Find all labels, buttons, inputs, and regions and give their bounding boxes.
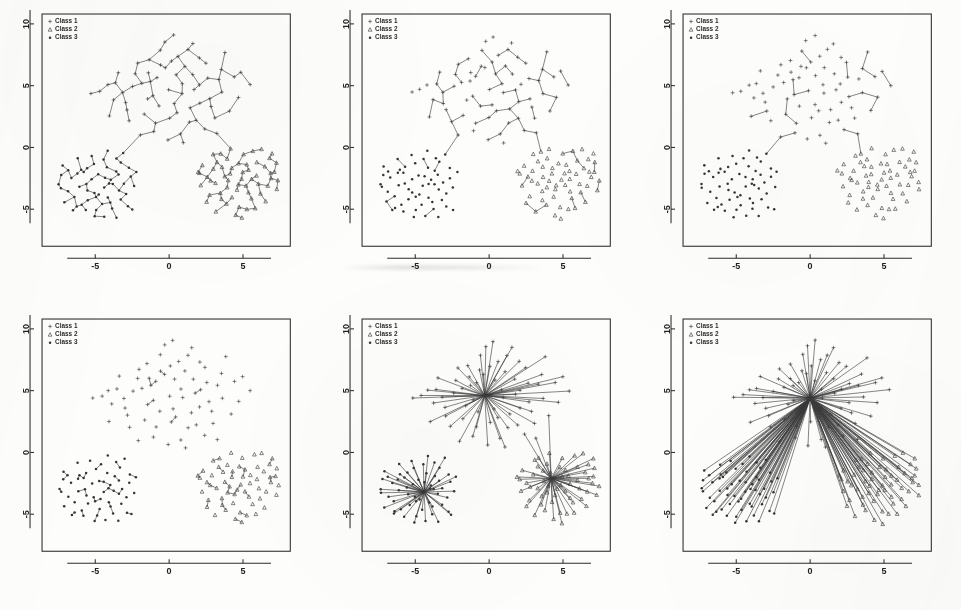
data-point xyxy=(256,465,260,469)
data-point xyxy=(129,473,132,476)
x-tick-label: 5 xyxy=(881,261,886,271)
data-point xyxy=(115,387,119,391)
data-point xyxy=(58,488,61,491)
data-point xyxy=(804,66,808,70)
legend-label: Class 2 xyxy=(55,331,78,338)
data-point xyxy=(136,377,140,381)
star-edge xyxy=(381,342,599,524)
data-point xyxy=(903,165,907,169)
data-point xyxy=(209,105,213,109)
data-point xyxy=(117,173,120,176)
data-point xyxy=(738,480,741,483)
data-point xyxy=(108,501,111,504)
data-point xyxy=(548,109,552,113)
plus-marker-icon xyxy=(368,20,372,24)
data-point xyxy=(425,520,428,523)
data-point xyxy=(454,379,458,383)
data-point xyxy=(207,400,211,404)
data-point xyxy=(535,131,539,135)
data-point xyxy=(412,483,415,486)
data-point xyxy=(430,178,433,181)
data-point xyxy=(87,503,90,506)
data-point xyxy=(408,198,411,201)
data-point xyxy=(568,169,572,173)
axes-frame: -5051050-5 xyxy=(341,10,610,271)
data-point xyxy=(163,343,167,347)
data-point xyxy=(98,193,101,196)
y-tick-label: 0 xyxy=(341,145,351,150)
data-point xyxy=(444,457,447,460)
data-point xyxy=(426,149,429,152)
data-point xyxy=(424,175,427,178)
data-point xyxy=(744,491,747,494)
data-point xyxy=(491,103,495,107)
data-point xyxy=(93,215,96,218)
data-point xyxy=(467,57,471,61)
data-point xyxy=(80,203,83,206)
data-point xyxy=(735,516,738,519)
data-point xyxy=(117,520,120,523)
data-points xyxy=(700,339,920,526)
data-point xyxy=(559,205,563,209)
data-point xyxy=(166,138,170,142)
data-point xyxy=(530,179,534,183)
data-point xyxy=(719,168,722,171)
data-point xyxy=(559,217,563,221)
data-point xyxy=(493,378,497,382)
data-point xyxy=(542,397,546,401)
data-point xyxy=(107,487,110,490)
data-point xyxy=(275,493,279,497)
data-point xyxy=(813,103,817,107)
data-point xyxy=(860,91,864,95)
data-point xyxy=(95,468,98,471)
data-point xyxy=(397,479,400,482)
data-point xyxy=(887,388,891,392)
data-point xyxy=(137,368,141,372)
data-point xyxy=(862,164,866,168)
data-point xyxy=(411,90,415,94)
data-point xyxy=(429,420,433,424)
data-point xyxy=(198,360,202,364)
data-point xyxy=(130,175,133,178)
data-point xyxy=(497,53,501,57)
data-point xyxy=(861,189,865,193)
data-point xyxy=(479,354,483,358)
data-point xyxy=(397,158,400,161)
data-point xyxy=(828,108,832,112)
legend-label: Class 1 xyxy=(55,17,78,24)
legend-label: Class 2 xyxy=(696,331,719,338)
data-point xyxy=(425,472,428,475)
data-point xyxy=(448,511,451,514)
data-point xyxy=(231,501,235,505)
data-point xyxy=(434,462,437,465)
data-point xyxy=(248,482,252,486)
data-point xyxy=(867,180,871,184)
data-point xyxy=(210,410,214,414)
data-point xyxy=(257,487,261,491)
plot-frame xyxy=(362,319,610,551)
data-point xyxy=(720,509,723,512)
circle-marker-icon xyxy=(369,342,372,345)
data-point xyxy=(776,73,780,77)
data-point xyxy=(865,356,869,360)
panel-2: -5051050-5Class 1Class 2Class 3 xyxy=(320,0,640,305)
circle-marker-icon xyxy=(369,37,372,40)
data-point xyxy=(119,198,122,201)
data-point xyxy=(842,128,846,132)
data-point xyxy=(700,487,703,490)
data-point xyxy=(865,157,869,161)
data-point xyxy=(723,171,726,174)
data-point xyxy=(434,475,437,478)
data-point xyxy=(400,508,403,511)
data-point xyxy=(455,476,458,479)
data-point xyxy=(536,182,540,186)
data-point xyxy=(510,41,514,45)
data-point xyxy=(106,472,109,475)
x-tick-label: -5 xyxy=(732,567,740,577)
data-point xyxy=(260,451,264,455)
data-point xyxy=(193,392,197,396)
data-point xyxy=(528,97,532,101)
data-point xyxy=(537,79,541,83)
data-point xyxy=(171,407,175,411)
plot-frame xyxy=(42,319,290,551)
